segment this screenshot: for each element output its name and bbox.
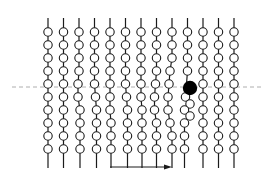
bead	[199, 132, 207, 140]
bead-chain	[74, 18, 84, 168]
bead	[152, 145, 160, 153]
bead	[123, 106, 131, 114]
bead-chain	[121, 18, 131, 168]
bead	[107, 119, 115, 127]
bead	[214, 41, 222, 49]
bead	[214, 67, 222, 75]
bead	[74, 80, 82, 88]
bead-chain	[164, 18, 176, 168]
bead	[214, 145, 222, 153]
bead	[121, 67, 129, 75]
bead	[150, 106, 158, 114]
bead	[90, 67, 98, 75]
bead	[137, 41, 145, 49]
bead	[151, 80, 159, 88]
bead	[75, 41, 83, 49]
bead	[90, 80, 98, 88]
bead	[92, 119, 100, 127]
bead	[165, 80, 173, 88]
bead	[137, 67, 145, 75]
bead	[199, 54, 207, 62]
bead	[183, 28, 191, 36]
bead	[106, 93, 114, 101]
bead	[137, 28, 145, 36]
bead	[121, 28, 129, 36]
bead	[121, 54, 129, 62]
bead	[106, 80, 114, 88]
bead	[152, 41, 160, 49]
bead	[152, 28, 160, 36]
bead	[59, 93, 67, 101]
bead	[107, 132, 115, 140]
bead	[92, 106, 100, 114]
bead-chain	[106, 18, 115, 168]
bead	[214, 80, 222, 88]
bead	[44, 93, 52, 101]
bead	[230, 132, 238, 140]
bead	[75, 67, 83, 75]
bead	[199, 145, 207, 153]
bead	[106, 28, 114, 36]
bead	[168, 41, 176, 49]
bead	[122, 93, 130, 101]
bead	[199, 28, 207, 36]
bead	[121, 80, 129, 88]
bead	[199, 67, 207, 75]
bead-chain	[44, 18, 52, 168]
bead	[168, 54, 176, 62]
bead	[59, 67, 67, 75]
bead	[44, 132, 52, 140]
bead	[44, 106, 52, 114]
bead	[91, 93, 99, 101]
bead	[75, 28, 83, 36]
bead	[214, 132, 222, 140]
bead	[152, 119, 160, 127]
bead	[214, 93, 222, 101]
bead	[123, 132, 131, 140]
bead	[123, 145, 131, 153]
bead	[166, 67, 174, 75]
bead	[183, 67, 191, 75]
bead	[106, 106, 114, 114]
bead	[164, 106, 172, 114]
bead	[59, 119, 67, 127]
bead	[152, 67, 160, 75]
bead-chain	[199, 18, 207, 168]
bead	[138, 106, 146, 114]
highlighted-bead	[183, 81, 197, 95]
bead	[199, 41, 207, 49]
bead	[59, 106, 67, 114]
bead	[199, 93, 207, 101]
bead	[44, 41, 52, 49]
bead-chain	[59, 18, 67, 168]
bead	[168, 132, 176, 140]
bead	[166, 119, 174, 127]
bead	[59, 41, 67, 49]
bead	[138, 132, 146, 140]
bead	[230, 41, 238, 49]
bead	[138, 119, 146, 127]
bead	[183, 54, 191, 62]
bead	[214, 119, 222, 127]
bead	[199, 106, 207, 114]
bead	[138, 145, 146, 153]
bead	[199, 119, 207, 127]
bead-chain	[150, 18, 160, 168]
bead	[152, 132, 160, 140]
bead	[230, 54, 238, 62]
bead	[59, 80, 67, 88]
bead	[186, 112, 194, 120]
bead	[230, 119, 238, 127]
bead	[230, 67, 238, 75]
bead	[107, 145, 115, 153]
bead	[92, 145, 100, 153]
bead	[76, 145, 84, 153]
bead	[137, 54, 145, 62]
arrow-head-icon	[164, 165, 172, 170]
bead	[44, 80, 52, 88]
bead	[180, 132, 188, 140]
bead	[123, 119, 131, 127]
bead	[214, 28, 222, 36]
bead	[199, 80, 207, 88]
bead	[183, 41, 191, 49]
